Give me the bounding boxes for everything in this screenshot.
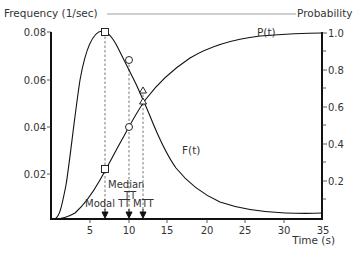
y-tick-label-left: 0.08 bbox=[24, 27, 46, 38]
mtt-marker-frequency bbox=[140, 87, 147, 93]
modal-marker-probability bbox=[102, 166, 109, 173]
modal-marker-frequency bbox=[102, 29, 109, 36]
y-tick-label-right: 0.6 bbox=[328, 102, 344, 113]
y-tick-label-right: 1.0 bbox=[328, 28, 344, 39]
y-tick-label-right: 0.8 bbox=[328, 65, 344, 76]
x-tick-label: 10 bbox=[123, 225, 136, 236]
x-tick-label: 20 bbox=[201, 225, 214, 236]
y-tick-label-right: 0.2 bbox=[328, 176, 344, 187]
y-tick-label-left: 0.04 bbox=[24, 122, 46, 133]
mtt-label: MTT bbox=[133, 198, 155, 209]
frequency-series-label: F(t) bbox=[182, 144, 200, 156]
y-tick-label-right: 0.4 bbox=[328, 139, 344, 150]
frequency-probability-chart: Frequency (1/sec) Probability 0.08 0.06 … bbox=[0, 0, 362, 260]
x-axis-label: Time (s) bbox=[291, 234, 335, 246]
median-marker-frequency bbox=[126, 57, 133, 64]
x-tick-label: 30 bbox=[278, 225, 291, 236]
y-axis-right-label: Probability bbox=[297, 7, 353, 19]
x-tick-label: 15 bbox=[161, 225, 174, 236]
arrow-icons bbox=[102, 209, 146, 218]
x-tick-label: 25 bbox=[239, 225, 252, 236]
median-tt-label-line1: Median bbox=[108, 179, 144, 190]
probability-curve bbox=[55, 33, 322, 219]
probability-series-label: P(t) bbox=[257, 26, 276, 38]
y-axis-left-label: Frequency (1/sec) bbox=[4, 7, 98, 19]
y-tick-label-left: 0.06 bbox=[24, 75, 46, 86]
y-tick-label-left: 0.02 bbox=[24, 169, 46, 180]
x-tick-label: 5 bbox=[87, 225, 93, 236]
median-marker-probability bbox=[126, 124, 133, 131]
